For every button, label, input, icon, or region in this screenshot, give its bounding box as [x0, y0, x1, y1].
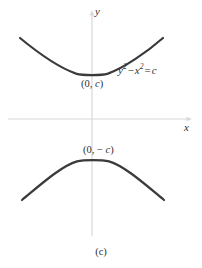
- vertex-lower-sign: −: [97, 144, 106, 155]
- y-axis-arrowhead: [90, 10, 94, 16]
- vertex-label-lower: (0, − c): [83, 145, 114, 156]
- vertex-upper-open: (0,: [81, 78, 95, 89]
- hyperbola-figure: y x (0, c) (0, − c) y2−x2=c (c): [0, 0, 202, 268]
- figure-caption: (c): [0, 246, 202, 257]
- equation-exp-x: 2: [140, 62, 144, 71]
- equation-minus-operator: −: [127, 64, 135, 76]
- vertex-lower-open: (0,: [83, 144, 97, 155]
- vertex-label-upper: (0, c): [81, 79, 103, 90]
- equation-constant-c: c: [152, 64, 157, 76]
- equation-equals-operator: =: [144, 64, 152, 76]
- vertex-lower-close: ): [110, 144, 114, 155]
- y-axis-label: y: [95, 6, 100, 17]
- plot-canvas: [0, 0, 202, 268]
- equation-label: y2−x2=c: [118, 65, 157, 76]
- hyperbola-lower-branch: [22, 160, 164, 200]
- x-axis-label: x: [184, 122, 189, 133]
- vertex-upper-close: ): [100, 78, 104, 89]
